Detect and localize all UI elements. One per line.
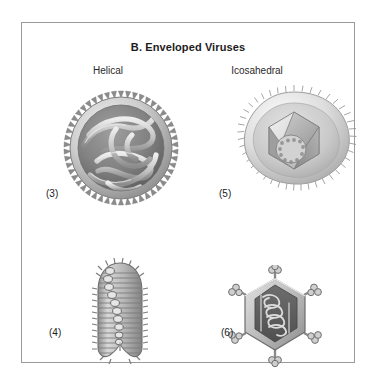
figure-label-5: (5) <box>219 188 231 199</box>
column-heading-helical: Helical <box>48 65 168 76</box>
enveloped-helical-virus-icon <box>56 83 186 217</box>
figure-label-6: (6) <box>221 327 233 338</box>
hexagonal-spiked-virus-icon <box>227 265 323 373</box>
enveloped-icosahedral-virus-icon <box>226 85 362 221</box>
bullet-shaped-virus-icon <box>84 255 156 383</box>
figure-label-3: (3) <box>46 188 58 199</box>
column-heading-icosahedral: Icosahedral <box>197 65 317 76</box>
figure-panel: B. Enveloped Viruses Helical Icosahedral <box>21 22 355 363</box>
figure-label-4: (4) <box>49 327 61 338</box>
page-title: B. Enveloped Viruses <box>22 41 354 53</box>
